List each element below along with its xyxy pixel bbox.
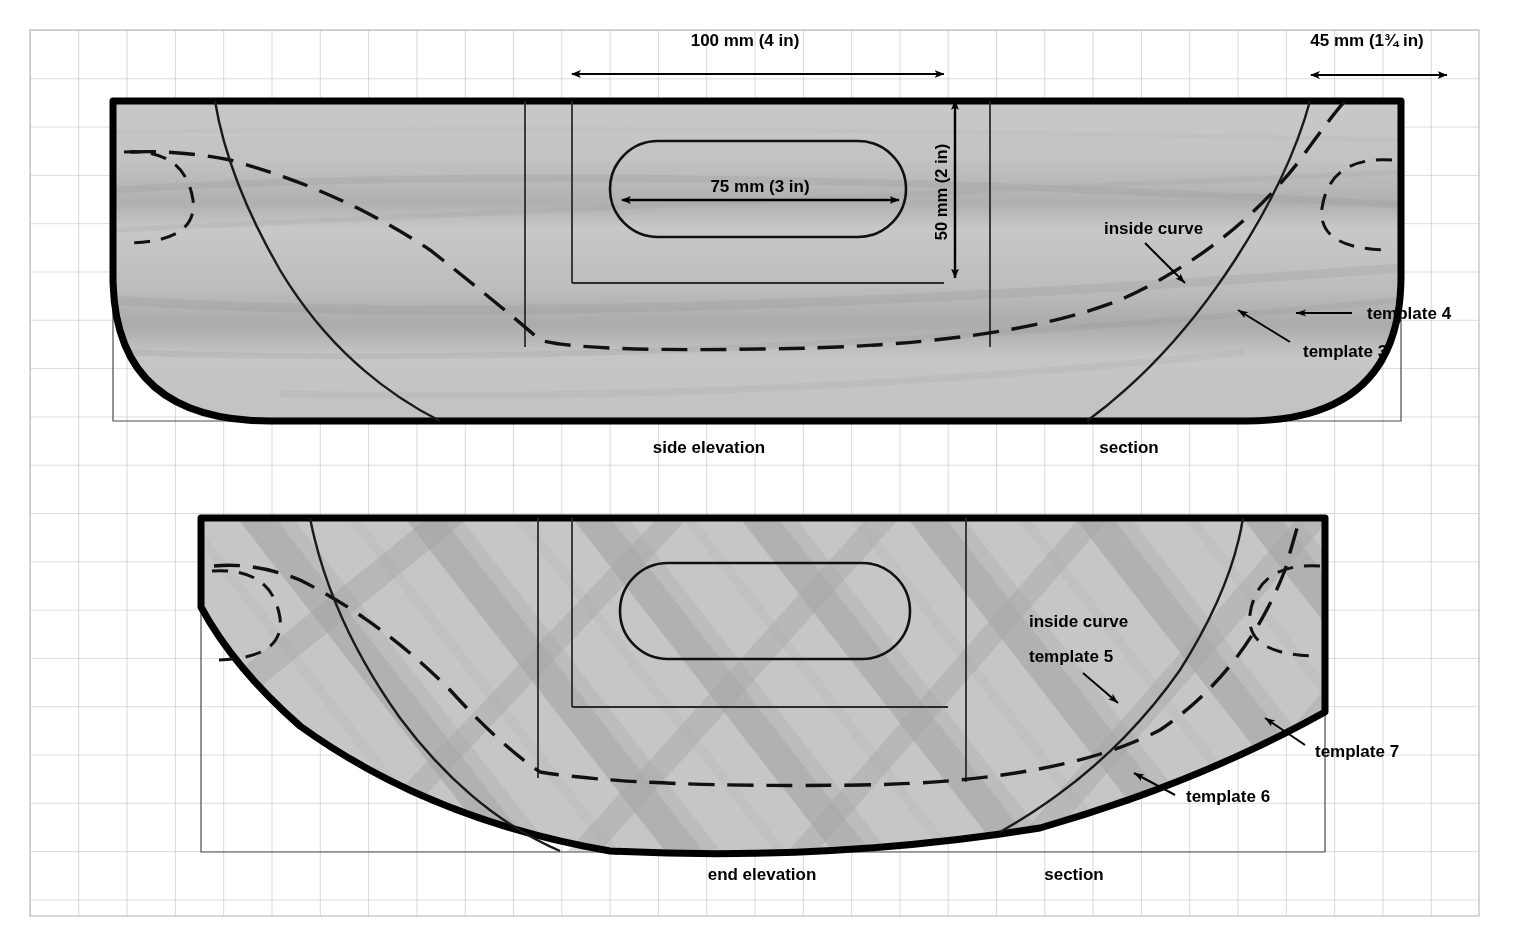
- dimension-label-100mm: 100 mm (4 in): [691, 31, 800, 50]
- annotation-label-template-7: template 7: [1315, 742, 1399, 761]
- annotation-label-template-3: template 3: [1303, 342, 1387, 361]
- dimension-label-45mm: 45 mm (1¾ in): [1310, 31, 1423, 50]
- caption-lower-section: section: [1044, 865, 1104, 884]
- technical-drawing-canvas: 100 mm (4 in) 45 mm (1¾ in) 75 mm (3 in)…: [0, 0, 1514, 946]
- caption-upper-section: section: [1099, 438, 1159, 457]
- dimension-label-50mm: 50 mm (2 in): [932, 144, 950, 240]
- annotation-label-inside-curve-lower: inside curve: [1029, 612, 1128, 631]
- drawing-page: 100 mm (4 in) 45 mm (1¾ in) 75 mm (3 in)…: [0, 0, 1514, 946]
- annotation-label-template-4: template 4: [1367, 304, 1452, 323]
- annotation-label-template-5: template 5: [1029, 647, 1113, 666]
- caption-side-elevation: side elevation: [653, 438, 765, 457]
- annotation-label-template-6: template 6: [1186, 787, 1270, 806]
- annotation-inside-curve-lower: inside curve: [1029, 612, 1128, 631]
- upper-board-silhouette: [113, 101, 1401, 421]
- annotation-label-inside-curve-upper: inside curve: [1104, 219, 1203, 238]
- dimension-label-75mm: 75 mm (3 in): [710, 177, 809, 196]
- caption-end-elevation: end elevation: [708, 865, 817, 884]
